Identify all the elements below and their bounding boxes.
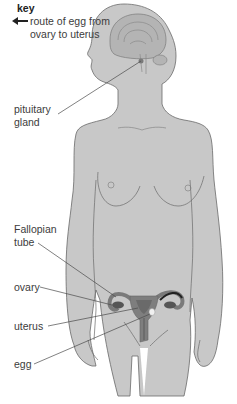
label-egg: egg — [14, 358, 32, 371]
label-pituitary-gland: pituitary gland — [14, 103, 51, 128]
label-fallopian-line2: tube — [14, 236, 57, 249]
key-title: key — [17, 2, 35, 14]
label-uterus: uterus — [14, 320, 43, 333]
label-fallopian-line1: Fallopian — [14, 223, 57, 236]
female-body-diagram — [0, 0, 237, 404]
egg — [149, 309, 155, 316]
label-pituitary-line2: gland — [14, 116, 51, 129]
key-description: route of egg from ovary to uterus — [30, 15, 110, 40]
label-fallopian-tube: Fallopian tube — [14, 223, 57, 248]
label-pituitary-line1: pituitary — [14, 103, 51, 116]
ovary-right — [164, 302, 176, 309]
left-arrow-icon — [11, 16, 29, 26]
label-ovary: ovary — [14, 281, 40, 294]
ovary-left — [112, 302, 124, 309]
